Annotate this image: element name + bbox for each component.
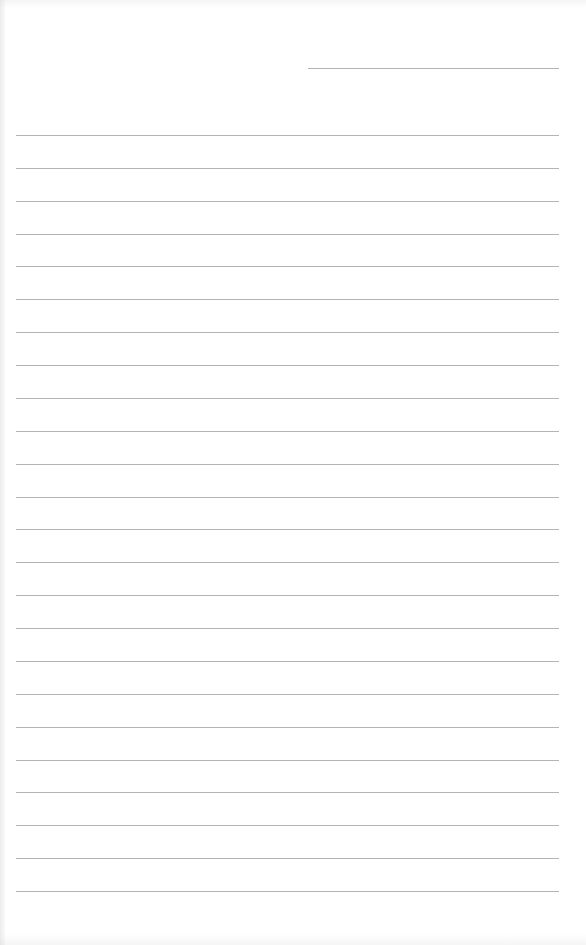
ruled-line bbox=[16, 135, 559, 136]
ruled-line bbox=[16, 431, 559, 432]
ruled-line bbox=[16, 825, 559, 826]
page-edge-shadow bbox=[0, 0, 6, 945]
ruled-line bbox=[16, 760, 559, 761]
ruled-line bbox=[16, 201, 559, 202]
scan-bleed-bottom bbox=[0, 934, 586, 945]
ruled-line bbox=[16, 365, 559, 366]
ruled-line bbox=[16, 661, 559, 662]
ruled-line bbox=[16, 497, 559, 498]
ruled-line bbox=[16, 628, 559, 629]
ruled-line bbox=[16, 398, 559, 399]
ruled-line bbox=[16, 595, 559, 596]
ruled-line bbox=[16, 464, 559, 465]
ruled-lines bbox=[16, 0, 559, 945]
ruled-line bbox=[16, 562, 559, 563]
ruled-line bbox=[16, 694, 559, 695]
ruled-line bbox=[16, 168, 559, 169]
ruled-line bbox=[16, 727, 559, 728]
ruled-line bbox=[16, 234, 559, 235]
ruled-line bbox=[16, 891, 559, 892]
ruled-line bbox=[16, 858, 559, 859]
ruled-line bbox=[16, 529, 559, 530]
ruled-line bbox=[16, 792, 559, 793]
lined-paper-page bbox=[0, 0, 586, 945]
ruled-line bbox=[16, 332, 559, 333]
ruled-line bbox=[16, 299, 559, 300]
ruled-line bbox=[16, 266, 559, 267]
